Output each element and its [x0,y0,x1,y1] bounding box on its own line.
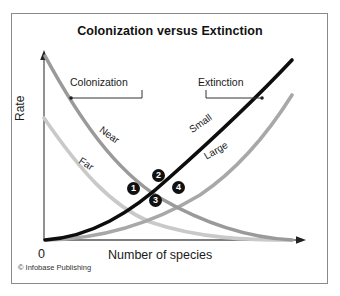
figure-container: Colonization versus Extinction [0,0,340,296]
publisher-credit: © Infobase Publishing [18,263,91,272]
colonization-callout-label: Colonization [70,76,128,88]
extinction-leader-line [206,90,264,100]
origin-tick-label: 0 [38,247,45,261]
intersection-marker-1: 1 [127,182,140,195]
intersection-marker-4: 4 [172,181,185,194]
y-axis-label: Rate [13,96,27,121]
x-axis-label: Number of species [108,248,212,262]
y-axis [40,50,48,240]
extinction-callout-label: Extinction [198,76,244,88]
intersection-marker-3: 3 [149,194,162,207]
intersection-marker-2: 2 [152,169,165,182]
colonization-leader-line [69,90,142,100]
